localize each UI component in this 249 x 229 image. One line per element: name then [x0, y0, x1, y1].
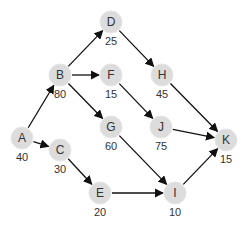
- node-h: H45: [151, 64, 173, 100]
- node-value: 15: [220, 153, 232, 165]
- node-value: 15: [105, 88, 117, 100]
- node-e: E20: [89, 182, 111, 218]
- node-label: G: [106, 120, 115, 134]
- node-value: 20: [94, 206, 106, 218]
- node-label: D: [107, 15, 116, 29]
- node-value: 30: [54, 163, 66, 175]
- node-label: B: [56, 68, 64, 82]
- node-value: 40: [16, 151, 28, 163]
- node-g: G60: [100, 116, 122, 152]
- node-label: K: [222, 133, 230, 147]
- node-c: C30: [49, 139, 71, 175]
- edge-f-j: [119, 84, 152, 119]
- edge-c-e: [68, 159, 92, 184]
- node-label: I: [173, 186, 176, 200]
- node-value: 75: [155, 140, 167, 152]
- node-i: I10: [164, 182, 186, 218]
- edge-b-d: [68, 31, 102, 67]
- node-a: A40: [11, 127, 33, 163]
- node-value: 80: [54, 88, 66, 100]
- node-label: C: [56, 143, 65, 157]
- node-label: J: [158, 120, 164, 134]
- node-b: B80: [49, 64, 71, 100]
- node-value: 60: [105, 140, 117, 152]
- edge-i-k: [183, 149, 217, 185]
- edge-a-b: [28, 85, 54, 127]
- node-f: F15: [100, 64, 122, 100]
- node-label: E: [96, 186, 104, 200]
- node-label: F: [107, 68, 114, 82]
- edge-j-k: [173, 129, 214, 137]
- node-k: K15: [215, 129, 237, 165]
- node-j: J75: [150, 116, 172, 152]
- network-diagram: A40B80C30D25E20F15G60H45I10J75K15: [0, 0, 249, 229]
- node-value: 45: [156, 88, 168, 100]
- node-d: D25: [100, 11, 122, 47]
- node-label: A: [18, 131, 26, 145]
- node-value: 10: [169, 206, 181, 218]
- node-value: 25: [105, 35, 117, 47]
- node-label: H: [158, 68, 167, 82]
- edge-b-g: [68, 84, 102, 119]
- edge-h-k: [170, 84, 217, 132]
- edge-a-c: [33, 142, 48, 147]
- edge-d-h: [119, 31, 153, 67]
